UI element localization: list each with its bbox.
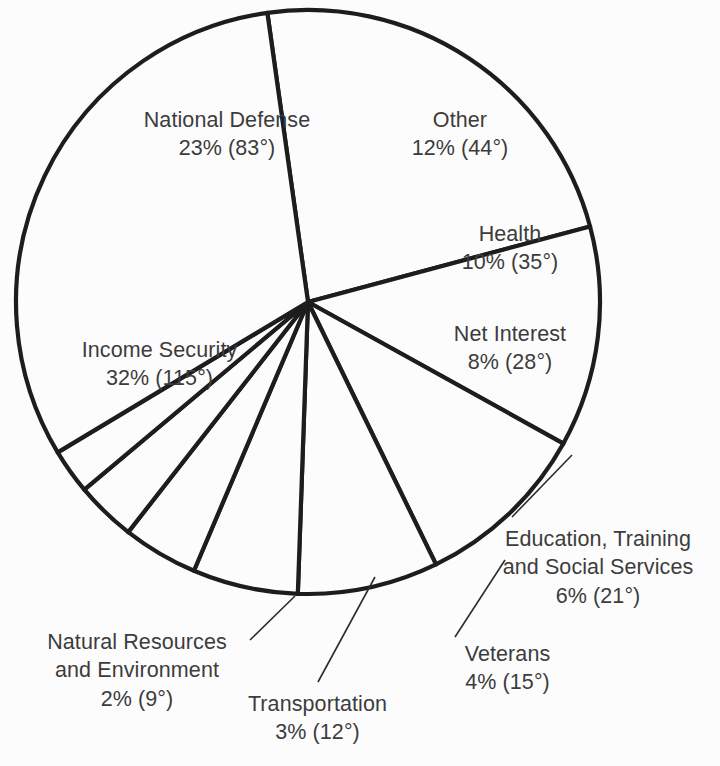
pie-label-other: Other12% (44°) [375, 106, 545, 163]
pie-label-name: Veterans [420, 640, 595, 668]
pie-label-name-line2: and Environment [22, 656, 252, 684]
pie-label-value: 12% (44°) [375, 134, 545, 162]
pie-label-value: 4% (15°) [420, 668, 595, 696]
pie-label-health: Health10% (35°) [425, 220, 595, 277]
pie-label-national-defense: National Defense23% (83°) [112, 106, 342, 163]
pie-label-value: 3% (12°) [225, 718, 410, 746]
pie-label-natural-resources-and-environment: Natural Resourcesand Environment2% (9°) [22, 628, 252, 713]
pie-label-education-training-and-social-services: Education, Trainingand Social Services6%… [483, 525, 713, 610]
pie-label-name: Net Interest [420, 320, 600, 348]
pie-label-name-line2: and Social Services [483, 553, 713, 581]
pie-label-name: Other [375, 106, 545, 134]
pie-label-value: 23% (83°) [112, 134, 342, 162]
pie-label-value: 10% (35°) [425, 248, 595, 276]
pie-label-value: 6% (21°) [483, 582, 713, 610]
pie-label-value: 8% (28°) [420, 348, 600, 376]
pie-label-income-security: Income Security32% (115°) [52, 336, 267, 393]
pie-label-name: Natural Resources [22, 628, 252, 656]
pie-label-name: National Defense [112, 106, 342, 134]
pie-label-name: Education, Training [483, 525, 713, 553]
pie-slices-group [16, 10, 600, 594]
pie-label-name: Transportation [225, 690, 410, 718]
pie-label-veterans: Veterans4% (15°) [420, 640, 595, 697]
pie-chart-figure: National Defense23% (83°)Other12% (44°)H… [0, 0, 720, 766]
pie-label-transportation: Transportation3% (12°) [225, 690, 410, 747]
pie-label-net-interest: Net Interest8% (28°) [420, 320, 600, 377]
pie-label-value: 2% (9°) [22, 685, 252, 713]
pie-label-name: Health [425, 220, 595, 248]
pie-label-value: 32% (115°) [52, 364, 267, 392]
natural-resources-leader [250, 596, 295, 640]
pie-label-name: Income Security [52, 336, 267, 364]
